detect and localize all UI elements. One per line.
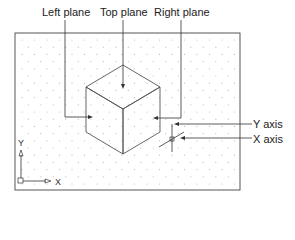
grid-dot (21, 126, 22, 127)
grid-dot (128, 61, 129, 62)
grid-dot (90, 176, 91, 177)
grid-dot (109, 83, 110, 84)
grid-dot (46, 111, 47, 112)
grid-dot (46, 140, 47, 141)
grid-dot (128, 176, 129, 177)
grid-dot (165, 90, 166, 91)
grid-dot (178, 133, 179, 134)
grid-dot (153, 61, 154, 62)
grid-dot (96, 39, 97, 40)
grid-dot (190, 104, 191, 105)
grid-dot (184, 169, 185, 170)
grid-dot (171, 68, 172, 69)
grid-dot (146, 68, 147, 69)
grid-dot (209, 169, 210, 170)
grid-dot (190, 162, 191, 163)
grid-dot (228, 61, 229, 62)
grid-dot (134, 111, 135, 112)
grid-dot (40, 104, 41, 105)
grid-dot (96, 183, 97, 184)
grid-dot (159, 68, 160, 69)
grid-dot (34, 126, 35, 127)
grid-dot (96, 111, 97, 112)
grid-dot (153, 119, 154, 120)
grid-dot (134, 97, 135, 98)
grid-dot (34, 68, 35, 69)
grid-dot (71, 54, 72, 55)
grid-dot (40, 61, 41, 62)
grid-dot (146, 83, 147, 84)
grid-dot (228, 119, 229, 120)
grid-dot (109, 68, 110, 69)
grid-dot (190, 147, 191, 148)
grid-dot (215, 90, 216, 91)
grid-dot (234, 183, 235, 184)
grid-dot (215, 104, 216, 105)
grid-dot (234, 54, 235, 55)
grid-dot (40, 75, 41, 76)
grid-dot (28, 90, 29, 91)
grid-dot (209, 183, 210, 184)
grid-dot (53, 147, 54, 148)
grid-dot (209, 111, 210, 112)
grid-dot (171, 83, 172, 84)
grid-dot (153, 104, 154, 105)
grid-dot (190, 61, 191, 62)
grid-dot (53, 162, 54, 163)
grid-dot (234, 126, 235, 127)
grid-dot (96, 54, 97, 55)
grid-dot (146, 97, 147, 98)
grid-dot (109, 111, 110, 112)
grid-dot (28, 61, 29, 62)
grid-dot (221, 68, 222, 69)
grid-dot (146, 183, 147, 184)
grid-dot (196, 126, 197, 127)
grid-dot (71, 126, 72, 127)
grid-dot (146, 39, 147, 40)
grid-dot (115, 90, 116, 91)
grid-dot (190, 47, 191, 48)
grid-dot (190, 75, 191, 76)
grid-dot (90, 47, 91, 48)
grid-dot (103, 133, 104, 134)
grid-dot (34, 39, 35, 40)
grid-dot (209, 54, 210, 55)
grid-dot (21, 169, 22, 170)
grid-dot (153, 133, 154, 134)
grid-dot (71, 155, 72, 156)
grid-dot (196, 155, 197, 156)
grid-dot (203, 75, 204, 76)
grid-dot (221, 183, 222, 184)
grid-dot (171, 97, 172, 98)
grid-dot (178, 147, 179, 148)
grid-dot (153, 147, 154, 148)
grid-dot (196, 39, 197, 40)
grid-dot (109, 140, 110, 141)
grid-dot (128, 147, 129, 148)
grid-dot (196, 183, 197, 184)
grid-dot (121, 126, 122, 127)
grid-dot (121, 111, 122, 112)
grid-dot (228, 75, 229, 76)
grid-dot (103, 147, 104, 148)
grid-dot (153, 162, 154, 163)
drawing-area-frame (15, 33, 240, 190)
grid-dot (21, 68, 22, 69)
grid-dot (115, 133, 116, 134)
grid-dot (171, 183, 172, 184)
grid-dot (84, 39, 85, 40)
grid-dot (234, 68, 235, 69)
grid-dot (153, 47, 154, 48)
grid-dot (159, 54, 160, 55)
grid-dot (40, 119, 41, 120)
grid-dot (90, 119, 91, 120)
grid-dot (128, 47, 129, 48)
grid-dot (159, 183, 160, 184)
grid-dot (46, 126, 47, 127)
grid-dot (203, 90, 204, 91)
grid-dot (103, 104, 104, 105)
grid-dot (71, 183, 72, 184)
grid-dot (209, 140, 210, 141)
grid-dot (109, 39, 110, 40)
grid-dot (28, 162, 29, 163)
